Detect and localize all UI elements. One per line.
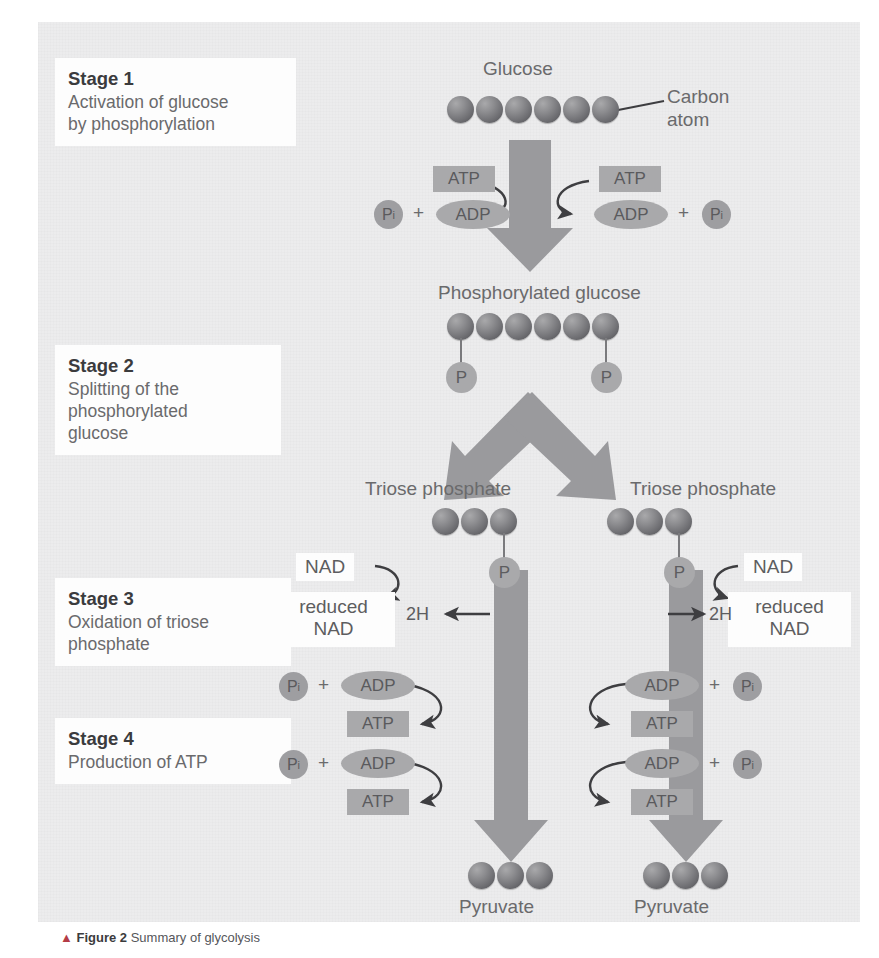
carbon-atom	[476, 313, 503, 340]
carbon-atom	[701, 862, 728, 889]
pi-stage1-right: Pi	[702, 200, 731, 229]
nad-left: NAD	[296, 553, 354, 581]
phosphate-group: P	[664, 557, 695, 588]
carbon-atom	[592, 313, 619, 340]
nad-right: NAD	[744, 553, 802, 581]
carbon-atom	[534, 313, 561, 340]
stage-3-desc: Oxidation of triose phosphate	[68, 611, 278, 655]
pi-stage4-right-2: Pi	[733, 750, 762, 779]
triose-phosphate-left-label: Triose phosphate	[365, 478, 511, 500]
triose-phosphate-right-label: Triose phosphate	[630, 478, 776, 500]
pi-subscript: i	[298, 759, 300, 771]
carbon-atom	[643, 862, 670, 889]
atp-stage1-right: ATP	[599, 166, 661, 192]
pi-label: P	[710, 206, 721, 224]
phosphate-bond	[503, 533, 505, 559]
plus-stage4-right-2: +	[709, 752, 720, 774]
adp-stage1-left: ADP	[436, 200, 510, 229]
atp-stage4-left-2: ATP	[347, 789, 409, 815]
pi-label: P	[287, 678, 298, 696]
pi-label: P	[382, 206, 393, 224]
pi-label: P	[287, 756, 298, 774]
stage-1-title: Stage 1	[68, 67, 283, 90]
carbon-atom	[505, 96, 532, 123]
carbon-atom	[490, 508, 517, 535]
stage-4-desc: Production of ATP	[68, 751, 278, 773]
reduced-nad-right: reduced NAD	[728, 592, 851, 647]
atp-stage1-left: ATP	[433, 166, 495, 192]
phosphate-bond	[460, 338, 462, 364]
atp-stage4-right-2: ATP	[631, 789, 693, 815]
two-h-left: 2H	[406, 604, 429, 625]
plus-stage4-right-1: +	[709, 674, 720, 696]
glucose-label: Glucose	[483, 58, 553, 80]
caption-text: Summary of glycolysis	[131, 930, 260, 945]
carbon-atom	[592, 96, 619, 123]
phosphate-group: P	[446, 362, 477, 393]
figure-caption: ▲ Figure 2 Summary of glycolysis	[60, 930, 260, 945]
carbon-atom	[476, 96, 503, 123]
pi-subscript: i	[393, 209, 395, 221]
adp-stage4-right-2: ADP	[625, 749, 699, 778]
stage-card-3: Stage 3 Oxidation of triose phosphate	[55, 578, 291, 666]
carbon-atom	[672, 862, 699, 889]
carbon-atom	[447, 313, 474, 340]
pyruvate-left-label: Pyruvate	[459, 896, 534, 918]
pi-subscript: i	[752, 681, 754, 693]
plus-stage1-right: +	[678, 202, 689, 224]
carbon-atom	[526, 862, 553, 889]
carbon-atom	[505, 313, 532, 340]
atp-stage4-left-1: ATP	[347, 711, 409, 737]
carbon-atom	[563, 96, 590, 123]
carbon-atom	[534, 96, 561, 123]
adp-stage4-left-1: ADP	[341, 671, 415, 700]
carbon-atom	[461, 508, 488, 535]
pi-stage4-left-2: Pi	[279, 750, 308, 779]
atp-stage4-right-1: ATP	[631, 711, 693, 737]
caption-marker: ▲	[60, 930, 73, 945]
phosphate-group: P	[489, 557, 520, 588]
carbon-atom	[447, 96, 474, 123]
stage-4-title: Stage 4	[68, 727, 278, 750]
carbon-atom	[468, 862, 495, 889]
carbon-atom	[607, 508, 634, 535]
pi-stage4-right-1: Pi	[733, 672, 762, 701]
reduced-nad-left: reduced NAD	[272, 592, 395, 647]
adp-stage4-left-2: ADP	[341, 749, 415, 778]
pi-subscript: i	[721, 209, 723, 221]
plus-stage4-left-1: +	[318, 674, 329, 696]
pyruvate-right-label: Pyruvate	[634, 896, 709, 918]
diagram-panel	[38, 22, 860, 922]
pi-label: P	[741, 678, 752, 696]
phosphorylated-glucose-label: Phosphorylated glucose	[438, 282, 641, 304]
pi-stage4-left-1: Pi	[279, 672, 308, 701]
plus-stage4-left-2: +	[318, 752, 329, 774]
stage-card-4: Stage 4 Production of ATP	[55, 718, 291, 784]
stage-3-title: Stage 3	[68, 587, 278, 610]
carbon-atom	[665, 508, 692, 535]
pi-subscript: i	[298, 681, 300, 693]
plus-stage1-left: +	[413, 202, 424, 224]
carbon-atom	[563, 313, 590, 340]
stage-card-1: Stage 1 Activation of glucose by phospho…	[55, 58, 296, 146]
adp-stage4-right-1: ADP	[625, 671, 699, 700]
pi-label: P	[741, 756, 752, 774]
stage-2-title: Stage 2	[68, 354, 268, 377]
carbon-atom	[497, 862, 524, 889]
phosphate-group: P	[591, 362, 622, 393]
caption-figure-number: Figure 2	[77, 930, 128, 945]
carbon-atom	[636, 508, 663, 535]
carbon-atom-annotation: Carbon atom	[667, 85, 729, 131]
pi-stage1-left: Pi	[374, 200, 403, 229]
adp-stage1-right: ADP	[594, 200, 668, 229]
carbon-atom	[432, 508, 459, 535]
stage-2-desc: Splitting of the phosphorylated glucose	[68, 378, 268, 444]
stage-card-2: Stage 2 Splitting of the phosphorylated …	[55, 345, 281, 455]
pi-subscript: i	[752, 759, 754, 771]
phosphate-bond	[678, 533, 680, 559]
stage-1-desc: Activation of glucose by phosphorylation	[68, 91, 283, 135]
two-h-right: 2H	[709, 604, 732, 625]
phosphate-bond	[605, 338, 607, 364]
